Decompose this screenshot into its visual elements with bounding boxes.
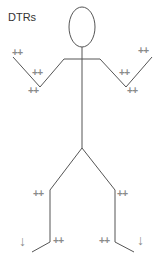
head xyxy=(69,7,95,47)
left-triceps-reflex: ++ xyxy=(28,86,39,96)
left-plantar-down-arrow-icon: ↓ xyxy=(19,236,26,246)
left-biceps-reflex: ++ xyxy=(32,68,43,78)
right-triceps-reflex: ++ xyxy=(127,86,138,96)
left-brachioradialis-reflex: ++ xyxy=(12,48,23,58)
left-achilles-reflex: ++ xyxy=(53,236,64,246)
right-patellar-reflex: ++ xyxy=(117,189,128,199)
right-achilles-reflex: ++ xyxy=(99,236,110,246)
right-biceps-reflex: ++ xyxy=(119,68,130,78)
left-patellar-reflex: ++ xyxy=(33,189,44,199)
right-plantar-down-arrow-icon: ↓ xyxy=(137,235,144,245)
right-brachioradialis-reflex: ++ xyxy=(138,46,149,56)
